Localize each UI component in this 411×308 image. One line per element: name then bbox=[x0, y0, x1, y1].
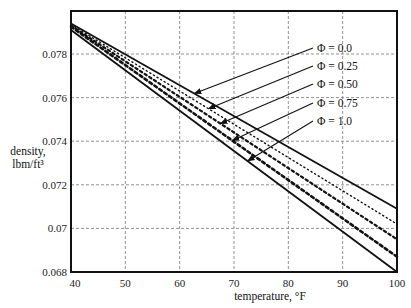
x-tick-label: 100 bbox=[389, 277, 406, 289]
y-tick-label: 0.072 bbox=[42, 179, 67, 191]
phi-label: Φ = 1.0 bbox=[317, 115, 352, 127]
y-axis-ticks: 0.0680.070.0720.0740.0760.078 bbox=[42, 48, 67, 278]
phi-label: Φ = 0.50 bbox=[317, 78, 358, 90]
x-tick-label: 90 bbox=[337, 277, 349, 289]
annotation-arrow bbox=[194, 48, 313, 94]
x-tick-label: 70 bbox=[229, 277, 241, 289]
phi-label: Φ = 0.25 bbox=[317, 60, 358, 72]
density-vs-temperature-chart: 405060708090100 0.0680.070.0720.0740.076… bbox=[0, 0, 411, 308]
y-tick-label: 0.076 bbox=[42, 92, 67, 104]
y-axis-label-line1: density, bbox=[10, 145, 45, 158]
y-axis-label-line2: lbm/ft³ bbox=[12, 158, 44, 170]
y-tick-label: 0.07 bbox=[48, 222, 68, 234]
phi-label: Φ = 0.0 bbox=[317, 42, 352, 54]
phi-annotations: Φ = 0.0Φ = 0.25Φ = 0.50Φ = 0.75Φ = 1.0 bbox=[194, 42, 358, 161]
x-axis-label: temperature, °F bbox=[234, 290, 306, 303]
y-tick-label: 0.074 bbox=[42, 135, 67, 147]
x-tick-label: 40 bbox=[70, 277, 82, 289]
annotation-arrow bbox=[208, 66, 313, 109]
phi-label: Φ = 0.75 bbox=[317, 97, 358, 109]
y-tick-label: 0.068 bbox=[42, 266, 67, 278]
x-tick-label: 80 bbox=[283, 277, 295, 289]
x-tick-label: 60 bbox=[174, 277, 186, 289]
x-tick-label: 50 bbox=[120, 277, 132, 289]
x-axis-ticks: 405060708090100 bbox=[70, 277, 406, 289]
y-tick-label: 0.078 bbox=[42, 48, 67, 60]
